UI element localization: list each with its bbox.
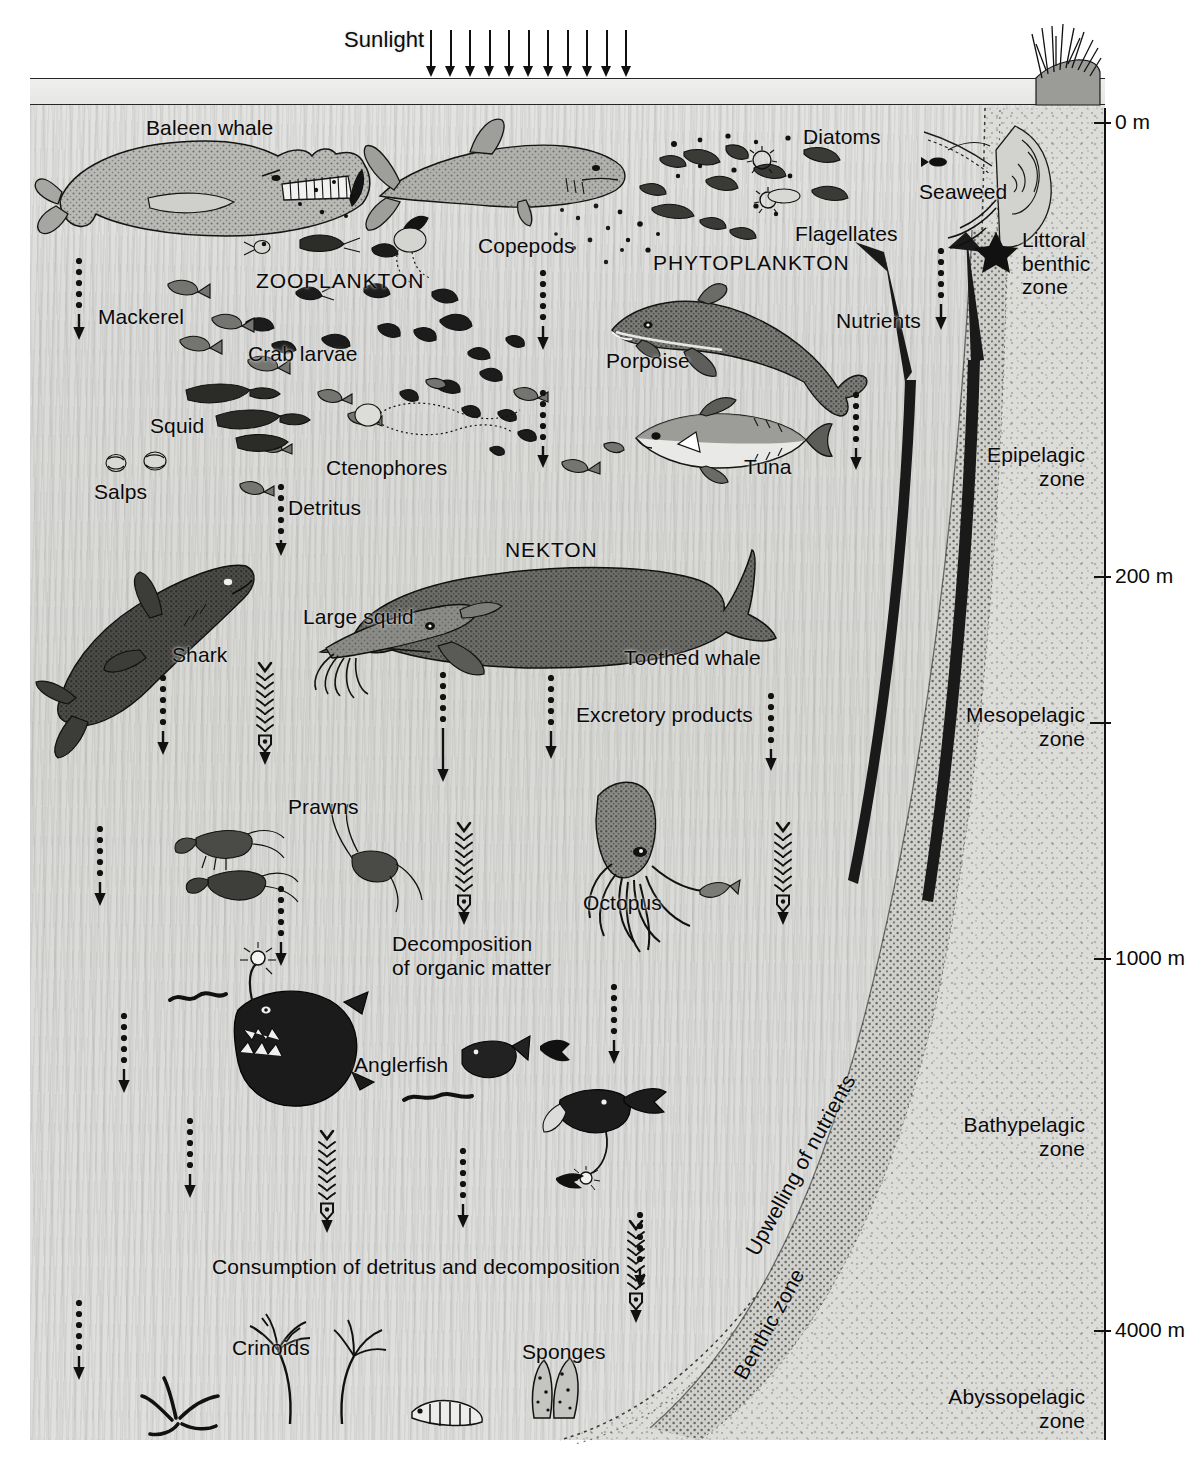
sunlight-ray — [469, 30, 471, 68]
sunlight-label: Sunlight — [344, 28, 424, 53]
zone-label-epipelagic-zone: Epipelagic zone — [987, 443, 1085, 490]
organism-label-phytoplankton: PHYTOPLANKTON — [653, 251, 849, 275]
depth-tick-label: 200 m — [1115, 564, 1173, 588]
detritus-flow-arrow — [273, 886, 289, 966]
detritus-flow-arrow — [182, 1118, 198, 1198]
organism-label-diatoms: Diatoms — [803, 125, 881, 149]
sunlight-ray-head — [601, 66, 611, 77]
sunlight-ray — [450, 30, 452, 68]
organism-label-anglerfish: Anglerfish — [354, 1053, 448, 1077]
detritus-flow-arrow — [848, 392, 864, 470]
depth-tick — [1094, 576, 1111, 578]
organism-label-squid: Squid — [150, 414, 204, 438]
organism-label-seaweed: Seaweed — [919, 180, 1007, 204]
bacterial-decomposition-arrow — [250, 660, 280, 765]
sunlight-ray-head — [582, 66, 592, 77]
detritus-flow-arrow — [71, 1300, 87, 1380]
depth-tick — [1090, 722, 1111, 724]
sunlight-ray — [567, 30, 569, 68]
detritus-flow-arrow — [933, 248, 949, 330]
detritus-flow-arrow — [435, 672, 451, 782]
organism-label-decomposition-of-organic-matter: Decomposition of organic matter — [392, 932, 551, 979]
organism-label-consumption-of-detritus-and-decomposition: Consumption of detritus and decompositio… — [212, 1255, 620, 1279]
bacterial-decomposition-arrow — [621, 1218, 651, 1323]
detritus-flow-arrow — [116, 1013, 132, 1093]
organism-label-flagellates: Flagellates — [795, 222, 898, 246]
sunlight-ray-head — [562, 66, 572, 77]
sunlight-ray-head — [465, 66, 475, 77]
depth-tick-label: 0 m — [1115, 110, 1150, 134]
zone-label-mesopelagic-zone: Mesopelagic zone — [966, 703, 1085, 750]
organism-label-nutrients: Nutrients — [836, 309, 921, 333]
organism-label-toothed-whale: Toothed whale — [624, 646, 761, 670]
sunlight-ray-head — [504, 66, 514, 77]
sunlight-ray — [489, 30, 491, 68]
detritus-flow-arrow — [455, 1148, 471, 1228]
sea-surface-band — [30, 78, 1105, 105]
organism-label-nekton: NEKTON — [505, 538, 598, 562]
detritus-flow-arrow — [273, 484, 289, 556]
detritus-flow-arrow — [535, 270, 551, 350]
organism-label-crab-larvae: Crab larvae — [248, 342, 358, 366]
sunlight-ray-head — [543, 66, 553, 77]
organism-label-baleen-whale: Baleen whale — [146, 116, 273, 140]
detritus-flow-arrow — [763, 693, 779, 771]
organism-label-crinoids: Crinoids — [232, 1336, 310, 1360]
detritus-flow-arrow — [535, 390, 551, 468]
bacterial-decomposition-arrow — [449, 820, 479, 925]
sunlight-ray-head — [523, 66, 533, 77]
organism-label-zooplankton: ZOOPLANKTON — [256, 269, 424, 293]
organism-label-large-squid: Large squid — [303, 605, 414, 629]
zone-label-bathypelagic-zone: Bathypelagic zone — [964, 1113, 1085, 1160]
ocean-ecosystem-diagram: Sunlight — [0, 0, 1203, 1484]
organism-label-prawns: Prawns — [288, 795, 359, 819]
sunlight-ray-head — [621, 66, 631, 77]
sunlight-ray — [547, 30, 549, 68]
zone-label-littoral-benthic-zone: Littoral benthic zone — [1022, 228, 1090, 299]
detritus-flow-arrow — [71, 258, 87, 340]
bacterial-decomposition-arrow — [768, 820, 798, 925]
organism-label-copepods: Copepods — [478, 234, 575, 258]
sunlight-ray — [508, 30, 510, 68]
organism-label-ctenophores: Ctenophores — [326, 456, 447, 480]
detritus-flow-arrow — [543, 675, 559, 759]
sunlight-ray — [586, 30, 588, 68]
detritus-flow-arrow — [606, 984, 622, 1064]
sunlight-ray-head — [484, 66, 494, 77]
organism-label-detritus: Detritus — [288, 496, 361, 520]
depth-axis-line — [1104, 108, 1106, 1440]
depth-tick-label: 4000 m — [1115, 1318, 1185, 1342]
sunlight-ray — [625, 30, 627, 68]
depth-tick-label: 1000 m — [1115, 946, 1185, 970]
sunlight-ray-head — [426, 66, 436, 77]
organism-label-octopus: Octopus — [583, 891, 662, 915]
organism-label-mackerel: Mackerel — [98, 305, 184, 329]
sunlight-ray-head — [445, 66, 455, 77]
depth-tick — [1094, 1330, 1111, 1332]
shore-vegetation — [1032, 24, 1101, 78]
organism-label-salps: Salps — [94, 480, 147, 504]
organism-label-tuna: Tuna — [744, 455, 792, 479]
detritus-flow-arrow — [92, 826, 108, 906]
detritus-flow-arrow — [155, 675, 171, 755]
sunlight-ray — [528, 30, 530, 68]
depth-tick — [1094, 122, 1111, 124]
depth-tick — [1094, 958, 1111, 960]
sunlight-ray — [430, 30, 432, 68]
organism-label-porpoise: Porpoise — [606, 349, 690, 373]
sunlight-ray — [606, 30, 608, 68]
organism-label-sponges: Sponges — [522, 1340, 606, 1364]
organism-label-excretory-products: Excretory products — [576, 703, 753, 727]
organism-label-shark: Shark — [172, 643, 227, 667]
zone-label-abyssopelagic-zone: Abyssopelagic zone — [948, 1385, 1085, 1432]
bacterial-decomposition-arrow — [312, 1128, 342, 1233]
